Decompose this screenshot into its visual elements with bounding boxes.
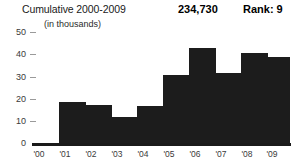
bar-2007 (215, 73, 242, 143)
x-axis-tick-07: '07 (208, 149, 234, 159)
bar-chart: 50 40 30 20 10 0 '00 '01 '02 '0 (0, 0, 295, 168)
bar-2001 (59, 102, 86, 143)
x-axis-tick-04: '04 (130, 149, 156, 159)
bar-2003 (111, 117, 138, 143)
x-axis-tick-00: '00 (26, 149, 52, 159)
y-axis-tick-20: 20 (4, 95, 26, 104)
bar-2008 (241, 53, 268, 143)
chart-panel: Cumulative 2000-2009 234,730 Rank: 9 (in… (0, 0, 295, 168)
y-axis-tick-40: 40 (4, 50, 26, 59)
x-axis-tick-09: '09 (259, 149, 285, 159)
y-axis-tick-10: 10 (4, 117, 26, 126)
bar-2009 (267, 57, 290, 143)
x-axis-tick-06: '06 (182, 149, 208, 159)
x-axis-tick-05: '05 (156, 149, 182, 159)
x-axis-tick-08: '08 (234, 149, 260, 159)
x-axis-tick-02: '02 (78, 149, 104, 159)
bar-2006 (189, 48, 216, 143)
bar-2002 (85, 105, 112, 143)
bar-2005 (163, 75, 190, 143)
x-axis-tick-03: '03 (104, 149, 130, 159)
x-axis-tick-01: '01 (52, 149, 78, 159)
y-axis-tick-0: 0 (4, 139, 26, 148)
x-axis-baseline (32, 143, 291, 146)
y-axis-tick-30: 30 (4, 73, 26, 82)
y-axis-tick-50: 50 (4, 28, 26, 37)
bar-series (32, 30, 291, 143)
bar-2004 (137, 106, 164, 143)
